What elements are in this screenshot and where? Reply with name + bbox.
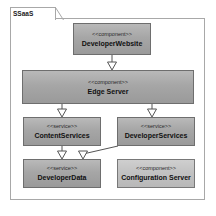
uml-component-diagram: SSaaS <<component>> Devel	[0, 0, 216, 216]
node-developer-services[interactable]: <<service>> DeveloperServices	[117, 117, 195, 146]
node-name: Edge Server	[88, 87, 129, 96]
node-configuration-server[interactable]: <<component>> Configuration Server	[117, 159, 195, 188]
node-stereotype: <<component>>	[92, 31, 132, 38]
node-name: Configuration Server	[121, 173, 191, 182]
node-stereotype: <<service>>	[141, 123, 171, 130]
package-tab-skew	[55, 7, 64, 20]
node-developer-website[interactable]: <<component>> DeveloperWebsite	[73, 23, 151, 55]
node-stereotype: <<service>>	[47, 123, 77, 130]
node-developer-data[interactable]: <<service>> DeveloperData	[23, 159, 101, 188]
node-name: DeveloperData	[37, 173, 86, 182]
node-name: DeveloperWebsite	[82, 39, 143, 48]
node-name: ContentServices	[34, 131, 89, 140]
node-content-services[interactable]: <<service>> ContentServices	[23, 117, 101, 146]
package-label: SSaaS	[13, 8, 33, 19]
node-stereotype: <<service>>	[47, 165, 77, 172]
node-edge-server[interactable]: <<component>> Edge Server	[22, 70, 194, 104]
node-name: DeveloperServices	[125, 131, 188, 140]
node-stereotype: <<component>>	[88, 79, 128, 86]
node-stereotype: <<component>>	[136, 165, 176, 172]
